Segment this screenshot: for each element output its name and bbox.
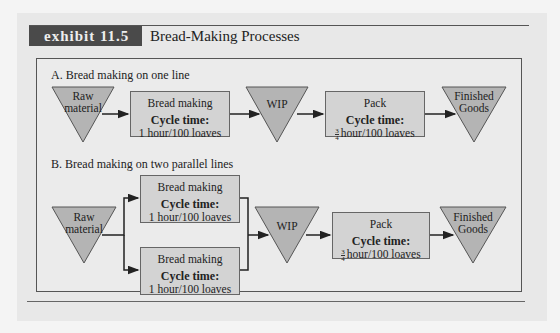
bread-making-title: Bread making [141, 252, 239, 266]
pack-title: Pack [326, 96, 424, 110]
cycle-time-unit: hour/100 loaves [341, 127, 415, 139]
cycle-time-unit: hour/100 loaves [347, 248, 421, 260]
wip-label-a: WIP [257, 98, 297, 110]
cycle-time-value: 1 hour/100 loaves [141, 211, 239, 224]
finished-goods-label-a: Finished Goods [449, 90, 499, 114]
cycle-time-value: 1 hour/100 loaves [131, 127, 229, 140]
section-a-label: A. Bread making on one line [51, 68, 190, 83]
raw-material-label-b: Raw material [59, 211, 109, 235]
raw-material-label-a: Raw material [58, 90, 108, 114]
cycle-time-label: Cycle time: [141, 197, 239, 211]
fraction: 34 [341, 249, 345, 262]
fraction-denominator: 4 [341, 256, 345, 262]
raw-label-line2: material [59, 223, 109, 235]
cycle-time-value: 34hour/100 loaves [326, 127, 424, 141]
cycle-time-value: 1 hour/100 loaves [141, 283, 239, 296]
cycle-time-label: Cycle time: [333, 234, 429, 248]
section-b-label: B. Bread making on two parallel lines [51, 157, 233, 172]
bread-making-title: Bread making [141, 180, 239, 194]
cycle-time-label: Cycle time: [326, 113, 424, 127]
fraction-denominator: 4 [335, 135, 339, 141]
finished-label-line2: Goods [449, 102, 499, 114]
bread-making-box-a: Bread making Cycle time: 1 hour/100 loav… [130, 91, 230, 137]
finished-label-line1: Finished [448, 211, 498, 223]
finished-label-line2: Goods [448, 223, 498, 235]
cycle-time-label: Cycle time: [131, 113, 229, 127]
raw-label-line1: Raw [58, 90, 108, 102]
wip-label-b: WIP [267, 220, 307, 232]
pack-title: Pack [333, 217, 429, 231]
cycle-time-label: Cycle time: [141, 269, 239, 283]
bread-making-box-b-top: Bread making Cycle time: 1 hour/100 loav… [140, 175, 240, 223]
pack-box-a: Pack Cycle time: 34hour/100 loaves [325, 91, 425, 137]
raw-label-line2: material [58, 102, 108, 114]
pack-box-b: Pack Cycle time: 34hour/100 loaves [332, 212, 430, 259]
bread-making-box-b-bottom: Bread making Cycle time: 1 hour/100 loav… [140, 247, 240, 295]
finished-label-line1: Finished [449, 90, 499, 102]
raw-label-line1: Raw [59, 211, 109, 223]
fraction: 34 [335, 128, 339, 141]
bread-making-title: Bread making [131, 96, 229, 110]
finished-goods-label-b: Finished Goods [448, 211, 498, 235]
cycle-time-value: 34hour/100 loaves [333, 248, 429, 262]
